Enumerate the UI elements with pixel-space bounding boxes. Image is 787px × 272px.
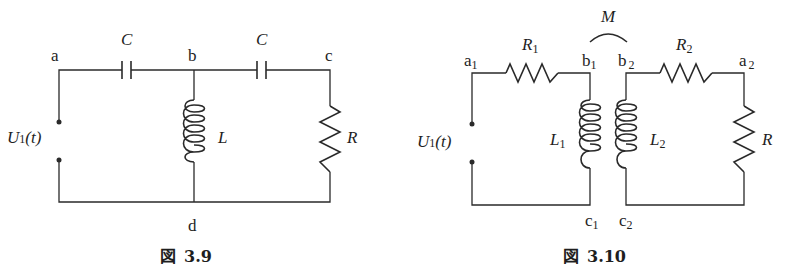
inductor-label: L [217,128,227,147]
wire-primary-bottom [472,162,590,205]
source-label: U1(t) [7,128,42,147]
source-terminal-top [57,120,62,125]
resistor-icon [320,106,340,172]
wire-secondary-bottom [626,168,744,205]
wire-left-top [59,70,122,122]
figure-caption: 図3.10 [563,247,626,266]
source-label: U1(t) [417,132,452,151]
source-terminal-bottom [470,160,475,165]
node-c1-label: c1 [585,211,599,232]
resistor-1-icon [506,64,558,82]
inductor-2-icon [616,100,637,168]
node-c-label: c [325,46,333,65]
wire-primary-r1-b1 [558,73,590,100]
wire-secondary-r2-a2 [712,73,744,106]
node-a-label: a [51,46,59,65]
node-a2-label: a2 [739,51,755,72]
inductor-2-label: L2 [649,130,665,151]
capacitor-1-icon [122,61,131,79]
mutual-inductance-label: M [600,7,616,26]
node-b-label: b [188,46,197,65]
source-terminal-top [470,122,475,127]
node-b1-label: b1 [582,51,597,72]
figure-3-10: M a1 b1 b2 a2 c1 c2 R1 R2 L1 L2 R U1(t) … [417,7,773,266]
source-terminal-bottom [57,158,62,163]
figure-canvas: a b c d C C L R U1(t) 図3.9 [0,0,787,272]
figure-3-9: a b c d C C L R U1(t) 図3.9 [7,30,358,266]
figure-caption: 図3.9 [160,247,212,266]
load-resistor-label: R [761,130,773,149]
inductor-1-icon [580,100,601,168]
resistor-2-label: R2 [675,35,692,56]
inductor-icon [184,100,205,162]
capacitor-1-label: C [121,30,133,49]
capacitor-2-icon [257,61,266,79]
mutual-inductance-arc-icon [590,34,627,42]
node-c2-label: c2 [619,211,633,232]
capacitor-2-label: C [256,30,268,49]
load-resistor-icon [734,106,754,172]
resistor-label: R [346,128,358,147]
resistor-1-label: R1 [521,35,538,56]
wire-primary-left-top [472,73,506,124]
node-d-label: d [188,216,197,235]
wire-b-c [266,70,330,106]
resistor-2-icon [660,64,712,82]
node-b2-label: b2 [618,51,635,72]
node-a1-label: a1 [464,51,478,72]
wire-secondary-b2-r2 [626,73,660,100]
inductor-1-label: L1 [549,130,565,151]
